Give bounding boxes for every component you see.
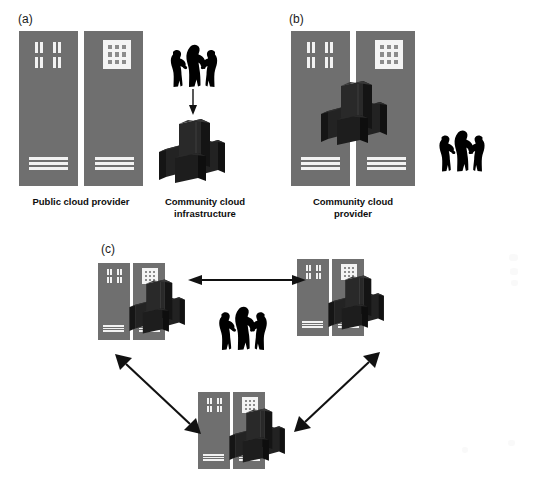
window-dot xyxy=(387,60,391,64)
building-base-stripes xyxy=(29,157,68,170)
window-slit xyxy=(309,265,311,271)
window-dot xyxy=(394,52,398,56)
base-stripe xyxy=(302,326,323,328)
node-servers xyxy=(126,268,190,340)
window-slit xyxy=(307,42,310,53)
window-dot xyxy=(115,45,119,49)
window-dot xyxy=(115,60,119,64)
panel-a: (a) xyxy=(0,0,269,232)
building-left xyxy=(19,31,78,186)
window-slit xyxy=(217,398,219,404)
base-stripe xyxy=(302,324,323,326)
window-slit xyxy=(309,273,311,279)
caption-community-cloud-infrastructure: Community cloud infrastructure xyxy=(150,196,260,220)
window-slit xyxy=(117,277,119,283)
window-slit xyxy=(207,398,209,404)
slit-pair xyxy=(30,40,48,55)
panel-b-letter: (b) xyxy=(289,12,304,26)
community-cloud-servers xyxy=(317,74,393,146)
cloud-node-top-left xyxy=(98,260,190,342)
window-cell xyxy=(393,51,400,59)
window-slit xyxy=(53,42,56,53)
scan-artifact xyxy=(509,254,518,261)
window-cell xyxy=(385,58,392,66)
slit-pair xyxy=(30,55,48,70)
caption-community-cloud-provider: Community cloud provider xyxy=(283,196,423,220)
people-group xyxy=(156,40,232,90)
window-cell xyxy=(121,51,128,59)
window-slit xyxy=(107,277,109,283)
base-stripe xyxy=(302,321,323,323)
window-dot xyxy=(122,45,126,49)
window-slit xyxy=(319,273,321,279)
base-stripe xyxy=(103,330,124,332)
double-arrow-diagonal-left xyxy=(115,354,201,434)
window-slit xyxy=(312,57,315,68)
window-cell xyxy=(378,58,385,66)
slit-pair xyxy=(302,40,320,55)
window-dot xyxy=(380,60,384,64)
building-base-stripes xyxy=(95,157,134,170)
base-stripe xyxy=(103,325,124,327)
base-stripe xyxy=(29,162,68,165)
base-stripe xyxy=(367,157,406,160)
caption-public-cloud-provider: Public cloud provider xyxy=(10,196,152,208)
window-dot xyxy=(108,45,112,49)
window-dot xyxy=(394,60,398,64)
building-base-stripes xyxy=(302,321,323,328)
base-stripe xyxy=(103,328,124,330)
scan-artifact xyxy=(510,268,518,275)
window-cell xyxy=(113,51,120,59)
slit-pair xyxy=(320,55,338,70)
base-stripe xyxy=(95,162,134,165)
window-slit xyxy=(35,42,38,53)
slit-pair xyxy=(215,397,226,405)
window-dot xyxy=(387,52,391,56)
slit-pair xyxy=(204,397,215,405)
window-slit xyxy=(117,269,119,275)
people-group xyxy=(204,300,282,355)
window-slit xyxy=(58,42,61,53)
window-cell xyxy=(106,43,113,51)
window-dot xyxy=(394,45,398,49)
base-stripe xyxy=(203,454,224,456)
window-slit xyxy=(316,265,318,271)
window-cell xyxy=(106,51,113,59)
node-servers xyxy=(325,264,389,336)
window-slit xyxy=(58,57,61,68)
window-slit xyxy=(319,265,321,271)
slit-pair xyxy=(320,40,338,55)
slit-pair xyxy=(48,40,66,55)
window-slit xyxy=(210,398,212,404)
window-slit xyxy=(307,57,310,68)
base-stripe xyxy=(203,457,224,459)
scan-artifact xyxy=(462,447,468,453)
window-panel-grid xyxy=(375,40,403,69)
window-cell xyxy=(385,51,392,59)
slit-pair xyxy=(104,276,115,284)
base-stripe xyxy=(301,162,340,165)
double-arrow-horizontal xyxy=(188,272,306,288)
base-stripe xyxy=(367,167,406,170)
base-stripe xyxy=(301,157,340,160)
base-stripe xyxy=(203,459,224,461)
window-slit xyxy=(316,273,318,279)
window-dot xyxy=(115,52,119,56)
people-group xyxy=(425,125,499,175)
window-slit xyxy=(325,57,328,68)
panel-c: (c) xyxy=(0,232,538,495)
window-slit xyxy=(120,277,122,283)
window-cell xyxy=(121,58,128,66)
window-slit-grid xyxy=(30,40,66,70)
window-slit xyxy=(53,57,56,68)
panel-a-letter: (a) xyxy=(18,12,33,26)
panel-b: (b) xyxy=(269,0,538,232)
building-right xyxy=(84,31,143,186)
building-base-stripes xyxy=(367,157,406,170)
window-dot xyxy=(122,52,126,56)
scan-artifact xyxy=(508,440,515,446)
base-stripe xyxy=(95,157,134,160)
window-dot xyxy=(380,52,384,56)
base-stripe xyxy=(95,167,134,170)
window-slit xyxy=(35,57,38,68)
